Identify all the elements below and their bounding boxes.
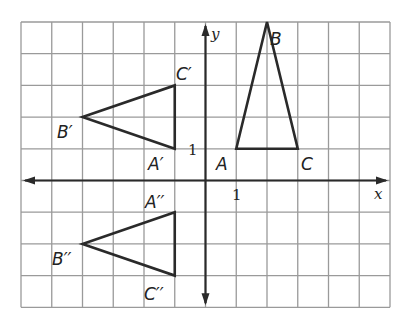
y-axis-up-arrow-icon [202, 24, 210, 36]
label-C: C [301, 154, 313, 174]
label-A: A [215, 154, 228, 174]
label-B-prime: B′ [57, 122, 73, 142]
label-C-double-prime: C′′ [144, 284, 164, 304]
label-C-prime: C′ [176, 64, 192, 84]
y-axis-label: y [210, 25, 220, 43]
y-tick-label-1: 1 [188, 141, 198, 159]
label-B: B [270, 29, 282, 49]
y-axis-down-arrow-icon [202, 293, 210, 305]
label-A-double-prime: A′′ [144, 192, 164, 212]
label-B-double-prime: B′′ [52, 249, 72, 269]
axes [23, 24, 388, 305]
label-A-prime: A′ [147, 154, 164, 174]
coordinate-plane: B A C C′ B′ A′ A′′ B′′ C′′ y x 1 1 [0, 0, 399, 326]
x-axis-right-arrow-icon [376, 177, 388, 185]
x-axis-left-arrow-icon [23, 177, 35, 185]
x-axis-label: x [374, 185, 383, 203]
x-tick-label-1: 1 [232, 186, 242, 204]
